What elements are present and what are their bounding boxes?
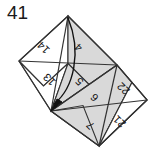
problem-number: 41 — [7, 3, 28, 23]
folding-diagram: 41 — [0, 0, 166, 157]
figure-svg: 14 4 13 5 6 22 7 21 — [0, 0, 166, 157]
